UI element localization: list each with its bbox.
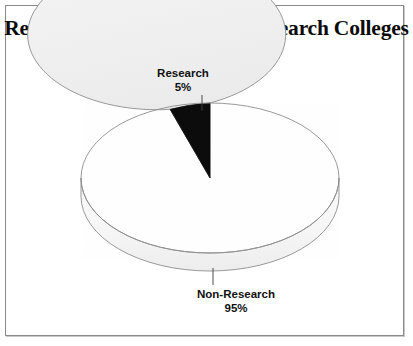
pie-side-wall [81, 178, 339, 271]
pie-label-non-research-name: Non-Research [176, 287, 296, 301]
pie-slice-research[interactable] [170, 103, 210, 178]
pie-label-non-research: Non-Research 95% [176, 287, 296, 315]
pie-label-non-research-percent: 95% [176, 301, 296, 315]
chart-figure: Research Colleges vs. Non-Research Colle… [0, 0, 413, 346]
pie-label-research: Research 5% [123, 66, 243, 94]
pie-label-research-percent: 5% [123, 80, 243, 94]
pie-label-research-name: Research [123, 66, 243, 80]
